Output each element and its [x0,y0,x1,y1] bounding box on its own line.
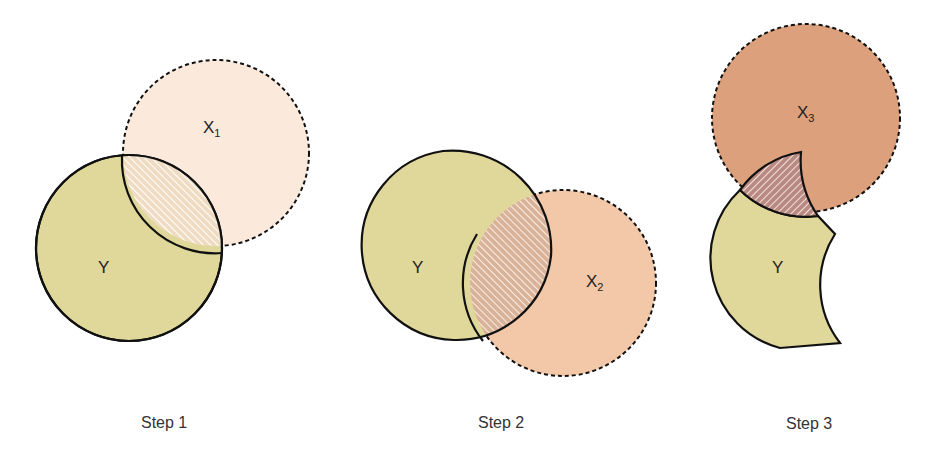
step-3-caption: Step 3 [786,415,832,432]
step-1-caption: Step 1 [141,414,187,431]
step-2-caption: Step 2 [478,414,524,431]
diagram-canvas: X1 Y Step 1 Y X2 Step 2 X3 Y Step 3 [0,0,931,449]
step-2-diagram: Y X2 Step 2 [362,151,656,431]
step-3-diagram: X3 Y Step 3 [710,24,900,432]
step-1-diagram: X1 Y Step 1 [36,60,309,431]
y-label: Y [98,258,109,277]
y-label: Y [412,258,423,277]
y-label: Y [772,258,783,277]
